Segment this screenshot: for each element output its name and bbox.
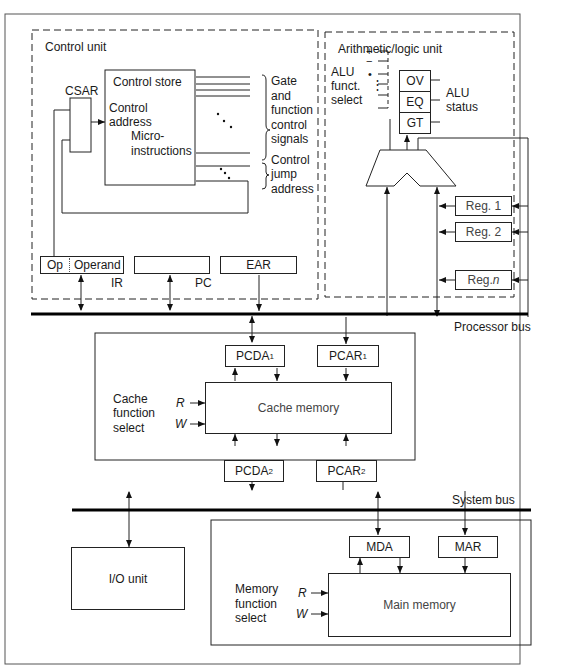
ir-operand: Operand bbox=[70, 258, 121, 272]
pc-register bbox=[134, 256, 210, 274]
ir-label: IR bbox=[111, 276, 123, 290]
register-n-prefix: Reg. bbox=[467, 273, 492, 287]
alu-title: Arithmetic/logic unit bbox=[338, 42, 442, 56]
pcar1-label: PCAR bbox=[329, 349, 362, 363]
alu-status-label-1: ALU bbox=[446, 86, 469, 100]
cache-write-signal: W bbox=[175, 417, 186, 431]
pcda2-register: PCDA2 bbox=[224, 460, 284, 482]
register-n-suffix: n bbox=[493, 273, 500, 287]
control-unit-title: Control unit bbox=[45, 40, 106, 54]
cache-function-select-1: Cache bbox=[113, 392, 148, 406]
register-2: Reg. 2 bbox=[455, 222, 512, 242]
pcda1-label: PCDA bbox=[236, 349, 269, 363]
ear-register: EAR bbox=[220, 256, 297, 274]
funct-symbol-minus: − bbox=[366, 54, 372, 68]
memory-function-select-2: function bbox=[235, 597, 277, 611]
memory-function-select-3: select bbox=[235, 611, 266, 625]
status-flag-ov: OV bbox=[399, 70, 431, 92]
cache-function-select-3: select bbox=[113, 421, 144, 435]
pcar2-sub: 2 bbox=[361, 467, 365, 476]
csar-label: CSAR bbox=[65, 84, 98, 98]
control-address-label-2: address bbox=[109, 115, 152, 129]
jump-address-label-2: jump bbox=[271, 167, 297, 181]
gate-signals-label-4: control bbox=[271, 118, 307, 132]
gate-signals-label-2: and bbox=[271, 89, 291, 103]
status-flag-eq: EQ bbox=[399, 91, 431, 113]
pcar2-label: PCAR bbox=[328, 464, 361, 478]
alu-status-label-2: status bbox=[446, 100, 478, 114]
micro-label-2: instructions bbox=[131, 144, 192, 158]
ir-op: Op bbox=[41, 258, 70, 272]
pcda1-sub: 1 bbox=[269, 352, 273, 361]
cache-memory: Cache memory bbox=[205, 382, 392, 434]
ir-register: Op Operand bbox=[40, 256, 124, 274]
pcar1-register: PCAR1 bbox=[317, 345, 379, 367]
alu-funct-select-3: select bbox=[331, 93, 362, 107]
system-bus-label: System bus bbox=[452, 493, 515, 507]
pcar2-register: PCAR2 bbox=[316, 460, 377, 482]
memory-write-signal: W bbox=[296, 607, 307, 621]
mda-register: MDA bbox=[349, 536, 410, 558]
control-store-label: Control store bbox=[113, 75, 182, 89]
gate-signals-label-5: signals bbox=[271, 132, 308, 146]
alu-funct-select-1: ALU bbox=[331, 65, 354, 79]
micro-label-1: Micro- bbox=[131, 129, 164, 143]
io-unit: I/O unit bbox=[71, 547, 185, 610]
pcar1-sub: 1 bbox=[362, 352, 366, 361]
pcda2-sub: 2 bbox=[268, 467, 272, 476]
processor-bus-label: Processor bus bbox=[454, 320, 531, 334]
pcda1-register: PCDA1 bbox=[225, 345, 285, 367]
pc-label: PC bbox=[195, 276, 212, 290]
main-memory: Main memory bbox=[328, 573, 511, 637]
gate-signals-label-1: Gate bbox=[271, 74, 297, 88]
register-n: Reg. n bbox=[455, 270, 512, 290]
memory-function-select-1: Memory bbox=[235, 582, 278, 596]
mar-register: MAR bbox=[438, 536, 498, 558]
status-flag-gt: GT bbox=[399, 112, 431, 134]
pcda2-label: PCDA bbox=[235, 464, 268, 478]
memory-read-signal: R bbox=[298, 586, 307, 600]
cache-read-signal: R bbox=[176, 396, 185, 410]
gate-signals-label-3: function bbox=[271, 103, 313, 117]
jump-address-label-1: Control bbox=[271, 153, 310, 167]
alu-funct-select-2: funct. bbox=[331, 79, 360, 93]
jump-address-label-3: address bbox=[271, 182, 314, 196]
control-address-label-1: Control bbox=[109, 101, 148, 115]
register-1: Reg. 1 bbox=[455, 196, 512, 216]
funct-symbol-vdots: ⋮ bbox=[371, 80, 384, 90]
cache-function-select-2: function bbox=[113, 406, 155, 420]
